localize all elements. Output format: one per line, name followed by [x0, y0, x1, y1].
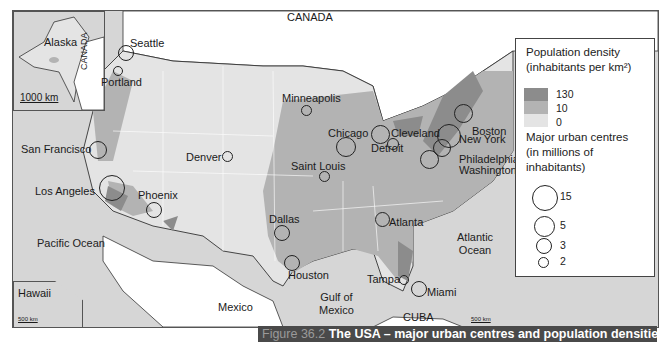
- legend-density-title: Population density (inhabitants per km²): [526, 45, 631, 75]
- gulf-of-mexico-label: Gulf ofMexico: [319, 291, 354, 317]
- map-frame: Alaska CANADA 1000 km Hawaii 500 km CANA…: [12, 10, 659, 328]
- density-value-high: 130: [556, 88, 574, 100]
- figure-number: Figure 36.2: [262, 327, 325, 341]
- hawaii-scale: 500 km: [18, 313, 38, 325]
- legend-urban-title: Major urban centres (in millions of inha…: [526, 130, 628, 175]
- cuba-label: CUBA: [403, 311, 434, 323]
- legend: Population density (inhabitants per km²)…: [515, 38, 655, 277]
- canada-label: CANADA: [287, 11, 333, 23]
- legend-circle-2: [538, 257, 549, 268]
- alaska-inset: Alaska CANADA 1000 km: [13, 11, 105, 111]
- pacific-ocean-label: Pacific Ocean: [37, 237, 105, 250]
- mexico-label: Mexico: [218, 301, 253, 313]
- swatch-high: [524, 88, 548, 101]
- hawaii-label: Hawaii: [18, 287, 51, 299]
- alaska-label: Alaska: [44, 36, 77, 48]
- alaska-scale: 1000 km: [20, 92, 58, 104]
- main-scale: 500 km: [471, 313, 491, 325]
- legend-circle-15: [532, 185, 558, 211]
- atlantic-ocean-label: AtlanticOcean: [457, 231, 493, 257]
- figure-title: The USA – major urban centres and popula…: [329, 327, 664, 341]
- swatch-mid: [524, 101, 548, 114]
- density-value-low: 0: [556, 116, 562, 128]
- alaska-canada-label: CANADA: [78, 32, 90, 70]
- density-value-mid: 10: [556, 102, 568, 114]
- legend-circle-5: [534, 216, 555, 237]
- swatch-low: [524, 114, 548, 127]
- legend-circle-3: [536, 238, 552, 254]
- figure-caption: Figure 36.2 The USA – major urban centre…: [258, 326, 657, 342]
